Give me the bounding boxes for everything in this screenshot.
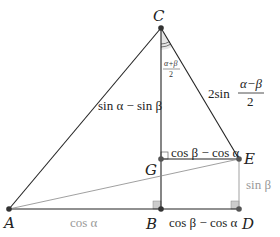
label-GE: cos β − cos α xyxy=(171,145,240,160)
label-A: A xyxy=(2,214,15,232)
label-CE-num: α−β xyxy=(240,76,263,91)
point-D xyxy=(236,206,242,212)
label-ED: sin β xyxy=(246,177,271,192)
label-D: D xyxy=(241,215,254,233)
label-B: B xyxy=(145,215,157,233)
point-G xyxy=(158,156,164,162)
geometry-diagram: C A B D E G sin α − sin β 2sin α−β 2 α+β… xyxy=(0,0,280,237)
label-AB: cos α xyxy=(70,215,98,230)
segment-AC xyxy=(9,28,161,209)
label-E: E xyxy=(243,150,255,168)
label-C: C xyxy=(153,7,165,25)
label-CG: sin α − sin β xyxy=(98,98,162,113)
label-CE-coef: 2sin xyxy=(208,86,230,101)
point-C xyxy=(158,25,164,31)
label-BD: cos β − cos α xyxy=(169,215,238,230)
label-angle-num: α+β xyxy=(164,59,178,68)
point-A xyxy=(6,206,12,212)
label-G: G xyxy=(145,161,157,179)
point-B xyxy=(158,206,164,212)
label-angle-den: 2 xyxy=(169,70,173,79)
segment-AE xyxy=(9,159,239,209)
label-CE-den: 2 xyxy=(247,94,254,109)
